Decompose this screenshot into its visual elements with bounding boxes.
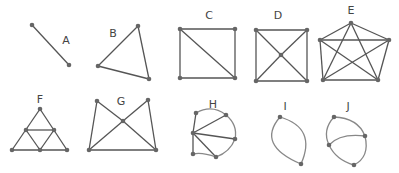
vertex	[38, 148, 43, 153]
edge	[320, 40, 378, 80]
vertex	[318, 38, 323, 43]
vertex	[178, 76, 183, 81]
edge	[193, 133, 235, 139]
edge	[193, 115, 226, 133]
vertex	[349, 21, 354, 26]
vertex	[327, 143, 332, 148]
graph-g: G	[87, 95, 159, 152]
graph-j: J	[326, 100, 367, 167]
vertex	[254, 79, 259, 84]
vertex	[38, 107, 43, 112]
vertex	[87, 148, 92, 153]
graph-label: B	[109, 27, 117, 40]
edge	[256, 30, 281, 55]
graph-a: A	[30, 23, 72, 68]
edge	[138, 26, 149, 79]
vertex	[305, 79, 310, 84]
curved-edge	[216, 139, 235, 157]
graph-label: H	[209, 98, 217, 111]
edge	[256, 55, 281, 81]
curved-edge	[329, 145, 354, 165]
edge	[40, 130, 54, 150]
graph-diagram: ABCDEFGHIJ	[0, 0, 399, 173]
edge	[123, 100, 148, 121]
edge	[351, 23, 389, 40]
vertex	[52, 128, 57, 133]
graph-label: G	[117, 95, 126, 108]
vertex	[299, 162, 304, 167]
edge	[180, 29, 235, 78]
edge	[123, 121, 156, 150]
curved-edge	[354, 136, 366, 165]
graph-h: H	[191, 98, 238, 159]
curved-edge	[334, 117, 365, 136]
curved-edge	[272, 117, 301, 164]
vertex	[233, 76, 238, 81]
graph-d: D	[254, 9, 310, 83]
graph-label: F	[37, 93, 43, 106]
graph-b: B	[96, 24, 152, 82]
edge	[320, 40, 323, 80]
vertex	[214, 155, 219, 160]
vertex	[376, 78, 381, 83]
curved-edge	[226, 115, 236, 139]
curved-edge	[280, 117, 306, 164]
graph-label: C	[205, 9, 213, 22]
vertex	[95, 99, 100, 104]
vertex	[147, 77, 152, 82]
vertex	[224, 113, 229, 118]
edge	[89, 101, 97, 150]
graph-label: A	[62, 34, 70, 47]
graph-label: I	[283, 100, 286, 113]
vertex	[154, 148, 159, 153]
vertex	[363, 134, 368, 139]
graph-label: J	[345, 100, 349, 113]
vertex	[233, 137, 238, 142]
graph-f: F	[10, 93, 70, 152]
edge	[193, 113, 196, 133]
vertex	[279, 53, 284, 58]
vertex	[30, 23, 35, 28]
graph-e: E	[318, 4, 392, 82]
vertex	[191, 131, 196, 136]
vertex	[96, 64, 101, 69]
vertex	[67, 63, 72, 68]
edge	[281, 55, 307, 81]
curved-edge	[329, 135, 365, 145]
vertex	[278, 115, 283, 120]
vertex	[387, 38, 392, 43]
edge	[98, 26, 138, 66]
vertex	[24, 128, 29, 133]
graph-label: D	[274, 9, 282, 22]
vertex	[146, 98, 151, 103]
edge	[281, 30, 307, 55]
vertex	[254, 28, 259, 33]
edge	[98, 66, 149, 79]
vertex	[332, 115, 337, 120]
vertex	[191, 152, 196, 157]
vertex	[352, 163, 357, 168]
vertex	[10, 148, 15, 153]
vertex	[194, 111, 199, 116]
vertex	[136, 24, 141, 29]
graph-i: I	[272, 100, 306, 166]
edge	[148, 100, 156, 150]
graph-label: E	[348, 4, 355, 17]
vertex	[178, 27, 183, 32]
edge	[26, 130, 40, 150]
vertex	[233, 27, 238, 32]
graph-c: C	[178, 9, 238, 80]
edge	[89, 121, 123, 150]
vertex	[305, 28, 310, 33]
vertex	[121, 119, 126, 124]
vertex	[321, 78, 326, 83]
vertex	[65, 148, 70, 153]
